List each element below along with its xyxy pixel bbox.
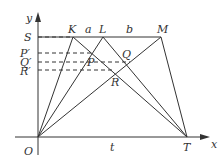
segment-o-l bbox=[38, 37, 103, 137]
label-k: K bbox=[67, 23, 77, 36]
label-l: L bbox=[98, 23, 106, 36]
label-m: M bbox=[156, 23, 169, 36]
origin-label: O bbox=[24, 145, 33, 158]
label-b: b bbox=[126, 23, 133, 36]
geometry-diagram: y x O S P′ Q′ R′ K L M a b P Q R t T bbox=[0, 0, 223, 166]
y-label: y bbox=[25, 12, 33, 25]
label-T: T bbox=[183, 141, 192, 154]
segment-o-m bbox=[38, 37, 161, 137]
label-s: S bbox=[24, 31, 32, 44]
label-p: P bbox=[86, 56, 95, 69]
x-axis-arrow-icon bbox=[200, 134, 210, 140]
segment-o-k bbox=[38, 37, 73, 137]
label-a: a bbox=[85, 23, 92, 36]
label-q: Q bbox=[122, 48, 131, 61]
x-label: x bbox=[211, 138, 218, 151]
label-r: R bbox=[110, 76, 119, 89]
label-r-prime: R′ bbox=[19, 65, 31, 78]
y-axis-arrow-icon bbox=[35, 12, 41, 22]
label-t-segment: t bbox=[110, 141, 115, 154]
